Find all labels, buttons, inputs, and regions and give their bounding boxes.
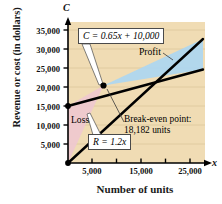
y-tick-label: 10,000 xyxy=(14,121,60,131)
x-axis-variable-label: x xyxy=(212,157,217,168)
x-tick-label: 5,000 xyxy=(82,166,101,176)
loss-label: Loss xyxy=(71,114,89,125)
breakeven-annotation-line2: 18,182 units xyxy=(124,125,191,136)
y-tick-label: 20,000 xyxy=(14,83,60,93)
cost-intercept-dot xyxy=(65,103,71,109)
x-tick-label: 25,000 xyxy=(178,166,202,176)
revenue-origin-dot xyxy=(65,160,71,166)
breakeven-point-dot xyxy=(100,82,106,88)
breakeven-annotation-line1: Break-even point: xyxy=(124,114,191,125)
y-tick-label: 25,000 xyxy=(14,64,60,74)
y-tick-label: 35,000 xyxy=(14,26,60,36)
breakeven-annotation: Break-even point: 18,182 units xyxy=(124,114,191,135)
x-tick-label: 15,000 xyxy=(129,166,153,176)
y-axis-variable-label: C xyxy=(63,2,70,13)
profit-label: Profit xyxy=(139,46,161,57)
revenue-equation-label: R = 1.2x xyxy=(88,134,131,150)
x-axis-title: Number of units xyxy=(55,183,215,195)
y-tick-label: 5,000 xyxy=(14,140,60,150)
breakeven-chart-figure: Revenue or cost (in dollars) 5,000 10,00… xyxy=(0,0,222,204)
y-tick-label-group: 5,000 10,000 15,000 20,000 25,000 30,000… xyxy=(12,0,60,204)
y-tick-label: 30,000 xyxy=(14,45,60,55)
cost-equation-label: C = 0.65x + 10,000 xyxy=(78,28,164,44)
x-axis-arrow xyxy=(204,160,212,166)
y-tick-label: 15,000 xyxy=(14,102,60,112)
y-axis-arrow xyxy=(65,17,71,25)
